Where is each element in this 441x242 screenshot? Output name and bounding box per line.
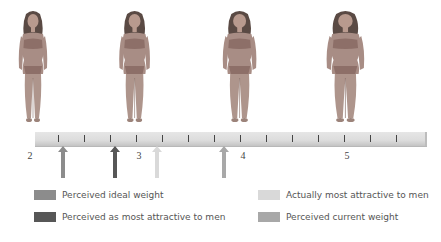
legend-label: Perceived as most attractive to men [62, 212, 225, 222]
body-figure-5 [319, 10, 372, 125]
body-figure-2 [13, 10, 53, 125]
legend-swatch [258, 190, 280, 200]
scale-tick [214, 135, 215, 142]
legend-item-perceived-ideal: Perceived ideal weight [34, 190, 164, 200]
scale-tick [188, 135, 189, 142]
legend-item-actually-most-attractive: Actually most attractive to men [258, 190, 429, 200]
scale-label-3: 3 [137, 150, 142, 161]
arrow-up-icon [110, 146, 120, 178]
legend-item-perceived-current: Perceived current weight [258, 212, 398, 222]
legend-label: Perceived ideal weight [62, 190, 164, 200]
body-figure-3 [113, 10, 156, 125]
scale-tick [370, 135, 371, 142]
legend-swatch [258, 212, 280, 222]
arrow-up-icon [219, 146, 229, 178]
scale-tick [396, 135, 397, 142]
scale-tick [110, 135, 111, 142]
scale-label-4: 4 [241, 150, 246, 161]
arrow-up-icon [152, 146, 162, 178]
legend-swatch [34, 212, 56, 222]
legend-item-perceived-most-attractive: Perceived as most attractive to men [34, 212, 225, 222]
arrow-up-icon [58, 146, 68, 178]
legend-label: Actually most attractive to men [286, 190, 429, 200]
scale-label-2: 2 [28, 150, 33, 161]
scale-tick [292, 135, 293, 142]
scale-tick [58, 135, 59, 142]
legend-label: Perceived current weight [286, 212, 398, 222]
body-figure-4 [216, 10, 263, 125]
scale-tick [318, 135, 319, 142]
scale-tick [136, 135, 137, 142]
scale-tick [344, 135, 345, 142]
legend-swatch [34, 190, 56, 200]
scale-tick [162, 135, 163, 142]
scale-label-5: 5 [345, 150, 350, 161]
scale-tick [240, 135, 241, 142]
body-size-scale-bar [35, 132, 427, 146]
scale-tick [84, 135, 85, 142]
scale-tick [266, 135, 267, 142]
